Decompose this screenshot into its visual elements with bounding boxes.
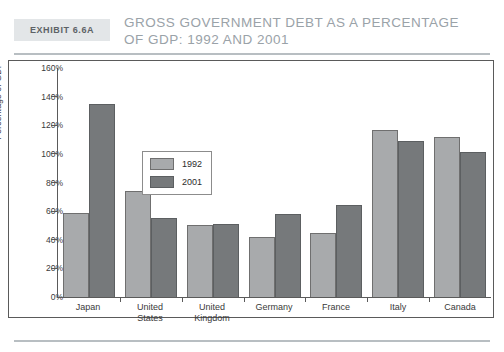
x-axis-label: United Kingdom [181,302,243,324]
bar-group [367,68,429,297]
bar [125,191,151,297]
bar [336,205,362,297]
bar [213,224,239,297]
footer-divider [14,340,490,342]
bar-group [58,68,120,297]
bar [89,104,115,297]
chart-container: Percentage of GDP 160%140%120%100%80%60%… [8,60,494,318]
bar [398,141,424,297]
bar [310,233,336,297]
bar [460,152,486,297]
x-axis-label: Canada [429,302,491,324]
legend-swatch [150,158,174,170]
y-axis-title: Percentage of GDP [0,41,3,161]
x-axis-label: Japan [57,302,119,324]
exhibit-tag-label: Exhibit 6.6A [30,25,94,35]
bar [151,218,177,297]
bar [275,214,301,297]
x-axis-label: France [305,302,367,324]
exhibit-tag: Exhibit 6.6A [14,19,110,41]
bars-layer [58,68,491,297]
legend-item: 2001 [150,175,202,189]
legend-label: 2001 [182,177,202,187]
legend-item: 1992 [150,157,202,171]
x-axis-label: Germany [243,302,305,324]
bar-group [305,68,367,297]
legend-label: 1992 [182,159,202,169]
bar [187,225,213,297]
bar [434,137,460,297]
bar [372,130,398,297]
bar [63,213,89,297]
legend-swatch [150,176,174,188]
bar-group [244,68,306,297]
bar-group [429,68,491,297]
page-title: Gross Government Debt as a Percentage of… [124,12,459,48]
plot-area [57,68,491,298]
exhibit-header: Exhibit 6.6A Gross Government Debt as a … [14,12,490,50]
bar [249,237,275,297]
x-axis-label: Italy [367,302,429,324]
x-axis-labels: JapanUnited StatesUnited KingdomGermanyF… [57,302,491,324]
header-divider [14,53,490,55]
x-axis-label: United States [119,302,181,324]
chart-legend: 19922001 [142,151,212,195]
